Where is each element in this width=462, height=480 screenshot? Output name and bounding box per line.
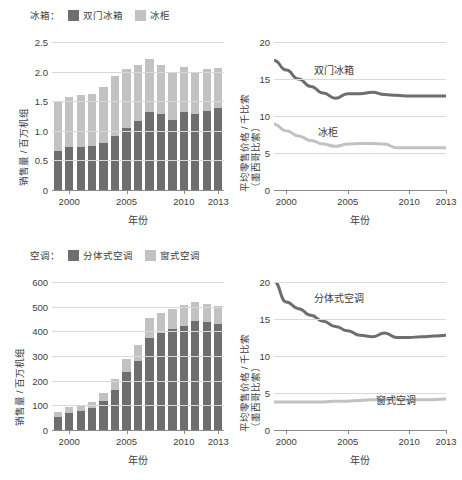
x-tick-mark [409, 190, 410, 194]
bar-segment-light [145, 318, 153, 338]
bar-segment-light [191, 73, 199, 114]
y-tick-label: 5 [240, 148, 270, 159]
bar-segment-dark [180, 326, 188, 430]
y-tick-label: 600 [18, 277, 48, 288]
bar-segment-light [77, 95, 85, 147]
bar-segment-light [54, 101, 62, 151]
bar-segment-dark [180, 112, 188, 190]
bar-segment-dark [77, 411, 85, 430]
y-tick-label: 0 [240, 185, 270, 196]
y-tick-label: 20 [240, 37, 270, 48]
x-tick-mark [127, 190, 128, 194]
legend-label-1: 窗式空调 [160, 248, 200, 262]
gridline [274, 282, 446, 283]
x-tick-label: 2010 [389, 196, 429, 207]
bar-segment-dark [77, 147, 85, 190]
series-label-freezer: 冰柜 [318, 124, 338, 139]
bar-segment-light [65, 97, 73, 147]
x-tick-label: 2005 [328, 436, 368, 447]
series-label-window-ac: 窗式空调 [376, 392, 416, 407]
gridline [274, 116, 446, 117]
gridline [274, 42, 446, 43]
y-tick-label: 1.0 [18, 125, 48, 136]
bar-segment-light [122, 359, 130, 372]
gridline [274, 319, 446, 320]
x-tick-mark [446, 190, 447, 194]
gridline [274, 393, 446, 394]
legend-label-0: 分体式空调 [83, 248, 133, 262]
bar-segment-dark [54, 417, 62, 430]
bar-segment-light [54, 412, 62, 418]
bar-segment-dark [99, 143, 107, 190]
y-tick-label: 300 [18, 351, 48, 362]
x-axis-label: 年份 [274, 212, 446, 227]
x-tick-label: 2005 [328, 196, 368, 207]
x-tick-label: 2000 [49, 436, 89, 447]
bar [203, 42, 211, 190]
x-tick-label: 2000 [266, 436, 306, 447]
y-axis-label: 平均零售价格 / 千比索 （墨西哥比索） [240, 334, 261, 432]
line-path [274, 399, 446, 402]
x-tick-mark [69, 190, 70, 194]
bar-segment-light [214, 306, 222, 324]
panel-refrigerator-price: 平均零售价格 / 千比索 （墨西哥比索） 年份 双门冰箱 冰柜 05101520… [236, 0, 462, 240]
legend-swatch-light [135, 10, 146, 21]
bar [180, 42, 188, 190]
gridline [52, 331, 224, 332]
bar-segment-light [134, 65, 142, 121]
bar-segment-light [191, 302, 199, 321]
y-tick-label: 500 [18, 301, 48, 312]
bar-segment-dark [122, 128, 130, 190]
bar-segment-dark [191, 321, 199, 430]
bar-segment-dark [111, 136, 119, 190]
bar-segment-dark [65, 413, 73, 430]
bar-segment-dark [214, 324, 222, 430]
bar-segment-dark [65, 147, 73, 190]
panel-refrigerator-sales: 冰箱： 双门冰箱 冰柜 销售量 / 百万机组 年份 00.51.01.52.02… [0, 0, 236, 240]
x-tick-mark [184, 190, 185, 194]
legend-swatch-dark [68, 250, 79, 261]
bar-segment-dark [157, 114, 165, 190]
x-tick-mark [184, 430, 185, 434]
axis-baseline [274, 430, 446, 431]
panel-ac-sales: 空调： 分体式空调 窗式空调 销售量 / 百万机组 年份 01002003004… [0, 240, 236, 480]
y-tick-label: 0 [240, 425, 270, 436]
bar-segment-light [180, 305, 188, 326]
x-tick-label: 2013 [198, 436, 238, 447]
bar-segment-light [157, 313, 165, 333]
y-tick-label: 20 [240, 277, 270, 288]
gridline [52, 42, 224, 43]
line-path [274, 124, 446, 148]
x-tick-label: 2005 [107, 436, 147, 447]
bar-segment-dark [88, 146, 96, 190]
x-tick-mark [409, 430, 410, 434]
bar-segment-dark [203, 111, 211, 190]
x-tick-label: 2013 [198, 196, 238, 207]
bar-segment-light [122, 69, 130, 128]
legend-item-0: 双门冰箱 [68, 8, 123, 22]
legend-swatch-light [145, 250, 156, 261]
x-axis-label: 年份 [274, 452, 446, 467]
y-axis-label-line1: 平均零售价格 / 千比索 [239, 94, 250, 192]
gridline [52, 405, 224, 406]
gridline [274, 153, 446, 154]
bar-segment-light [99, 393, 107, 402]
y-tick-label: 15 [240, 74, 270, 85]
bar [214, 42, 222, 190]
bar-segment-dark [168, 329, 176, 430]
y-axis-label-line1: 平均零售价格 / 千比索 [239, 334, 250, 432]
x-tick-mark [218, 430, 219, 434]
y-tick-label: 2.0 [18, 66, 48, 77]
bar [157, 42, 165, 190]
plot-area-refrigerator-sales [52, 42, 224, 190]
y-tick-label: 0.5 [18, 155, 48, 166]
x-tick-label: 2013 [426, 436, 462, 447]
axis-baseline [52, 430, 224, 431]
legend-item-1: 冰柜 [135, 8, 170, 22]
x-tick-mark [348, 190, 349, 194]
legend-swatch-dark [68, 10, 79, 21]
x-tick-mark [127, 430, 128, 434]
bar-segment-dark [134, 361, 142, 430]
bar-segment-light [168, 73, 176, 120]
x-tick-label: 2010 [389, 436, 429, 447]
